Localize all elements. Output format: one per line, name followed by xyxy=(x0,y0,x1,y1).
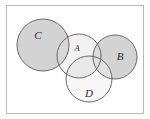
set-label-C: C xyxy=(34,29,42,41)
venn-diagram-figure: C A B D xyxy=(0,0,150,119)
set-label-D: D xyxy=(84,87,93,99)
venn-diagram-canvas: C A B D xyxy=(6,5,144,114)
set-label-B: B xyxy=(117,50,124,62)
set-label-A: A xyxy=(73,43,80,53)
figure-frame: C A B D xyxy=(6,5,144,114)
